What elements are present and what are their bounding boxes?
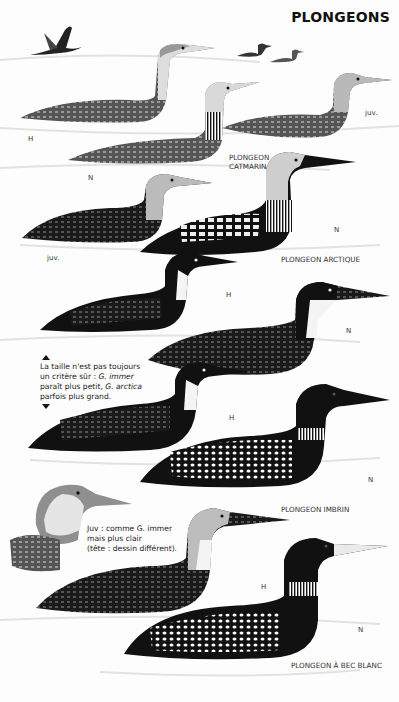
species-name-catmarin: PLONGEON CATMARIN: [229, 153, 269, 171]
label-imbrin-h2: H: [229, 414, 234, 422]
arrow-down-icon: [42, 404, 50, 409]
label-imbrin-n2: N: [368, 476, 373, 484]
size-note-line2-text: un critère sûr :: [40, 372, 98, 381]
label-catmarin-h: H: [28, 135, 33, 143]
size-note-line3-text: paraît plus petit,: [40, 382, 105, 391]
label-arctique-n: N: [334, 226, 339, 234]
loon-illustrations: [0, 0, 399, 702]
size-note-line2: un critère sûr : G. immer: [40, 372, 142, 382]
juvenile-note-line3: (tête : dessin différent).: [87, 544, 177, 554]
label-imbrin-h: H: [226, 291, 231, 299]
label-imbrin-n: N: [346, 327, 351, 335]
label-catmarin-n: N: [88, 174, 93, 182]
label-blanc-n: N: [358, 626, 363, 634]
species-g-arctica: G. arctica: [105, 382, 142, 391]
flying-loon-icon: [30, 26, 82, 55]
label-blanc-h: H: [261, 583, 266, 591]
size-note-line1: La taille n'est pas toujours: [40, 362, 142, 372]
species-name-bec-blanc: PLONGEON À BEC BLANC: [291, 661, 382, 670]
size-note: La taille n'est pas toujours un critère …: [40, 355, 142, 409]
species-name-arctique: PLONGEON ARCTIQUE: [281, 255, 360, 264]
species-name-imbrin: PLONGEON IMBRIN: [281, 505, 349, 514]
page-title: PLONGEONS: [291, 9, 390, 25]
size-note-line3: paraît plus petit, G. arctica: [40, 382, 142, 392]
species-name-catmarin-line1: PLONGEON: [229, 153, 269, 162]
juvenile-note-line2: mais plus clair: [87, 534, 177, 544]
species-g-immer: G. immer: [98, 372, 133, 381]
size-note-line4: parfois plus grand.: [40, 392, 142, 402]
loon-field-guide-plate: PLONGEONS H N juv. N juv. H N H N H N PL…: [0, 0, 399, 702]
label-arctique-juv: juv.: [47, 254, 60, 262]
distant-loons-icon: [237, 44, 304, 63]
juvenile-note-line1: Juv : comme G. immer: [87, 524, 177, 534]
label-catmarin-juv: juv.: [365, 109, 378, 117]
species-name-catmarin-line2: CATMARIN: [229, 162, 269, 171]
arrow-up-icon: [42, 355, 50, 360]
common-loon-winter-icon: [40, 252, 238, 332]
juvenile-note: Juv : comme G. immer mais plus clair (tê…: [87, 524, 177, 554]
